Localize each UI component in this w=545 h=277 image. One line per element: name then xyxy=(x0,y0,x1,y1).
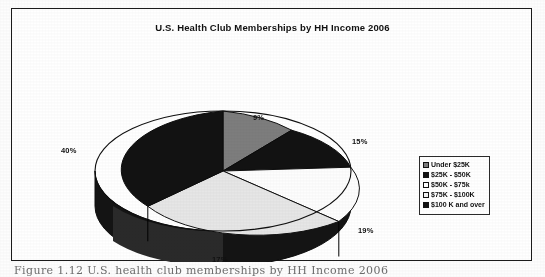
scanned-page: U.S. Health Club Memberships by HH Incom… xyxy=(0,0,545,277)
legend-label-under-25k: Under $25K xyxy=(431,161,470,169)
legend-item-50k-75k[interactable]: $50K - $75k xyxy=(423,181,485,191)
legend-swatch-100k-and-over xyxy=(423,202,429,208)
legend-item-25k-50k[interactable]: $25K - $50K xyxy=(423,171,485,181)
legend-swatch-75k-100k xyxy=(423,192,429,198)
legend-swatch-50k-75k xyxy=(423,182,429,188)
legend-label-100k-and-over: $100 K and over xyxy=(431,201,485,209)
chart-legend[interactable]: Under $25K $25K - $50K $50K - $75k $75K … xyxy=(419,156,490,215)
legend-swatch-25k-50k xyxy=(423,172,429,178)
legend-label-50k-75k: $50K - $75k xyxy=(431,181,470,189)
chart-frame: U.S. Health Club Memberships by HH Incom… xyxy=(11,8,532,261)
legend-swatch-under-25k xyxy=(423,162,429,168)
legend-label-75k-100k: $75K - $100K xyxy=(431,191,475,199)
data-label-under-25k: 9% xyxy=(253,113,264,122)
data-label-25k-50k: 15% xyxy=(352,137,368,146)
legend-item-100k-and-over[interactable]: $100 K and over xyxy=(423,201,485,211)
figure-caption: Figure 1.12 U.S. health club memberships… xyxy=(14,264,534,277)
data-label-50k-75k: 19% xyxy=(358,226,374,235)
legend-label-25k-50k: $25K - $50K xyxy=(431,171,471,179)
pie-chart-stage: 9% 15% 19% 17% 40% Under $25K $25K - $50… xyxy=(12,9,533,262)
data-label-75k-100k: 17% xyxy=(212,255,228,264)
legend-item-under-25k[interactable]: Under $25K xyxy=(423,161,485,171)
data-label-100k-and-over: 40% xyxy=(61,146,77,155)
pie-chart-3d xyxy=(12,9,533,262)
legend-item-75k-100k[interactable]: $75K - $100K xyxy=(423,191,485,201)
